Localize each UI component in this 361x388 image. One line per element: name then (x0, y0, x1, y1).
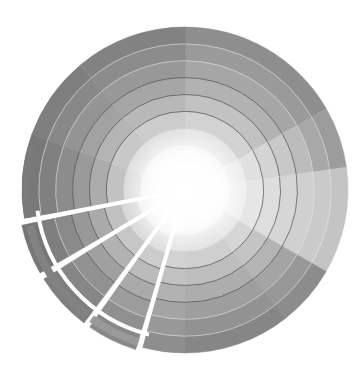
center-glow (123, 128, 247, 252)
color-wheel-graphic (0, 0, 361, 388)
color-wheel-image: Grayscale color wheel with concentric ri… (0, 0, 361, 388)
